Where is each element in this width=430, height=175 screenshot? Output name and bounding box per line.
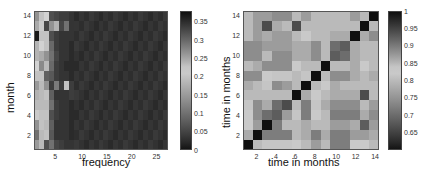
heatmap-cell: [272, 140, 282, 150]
heatmap-cell: [301, 120, 311, 130]
heatmap-cell: [340, 130, 350, 140]
heatmap-cell: [272, 81, 282, 91]
heatmap-cell: [243, 120, 253, 130]
heatmap-cell: [243, 81, 253, 91]
heatmap-cell: [163, 130, 168, 140]
x-tick-label: 25: [153, 153, 161, 160]
heatmap-cell: [311, 21, 321, 31]
heatmap-cell: [330, 41, 340, 51]
heatmap-cell: [321, 110, 331, 120]
heatmap-cell: [262, 90, 272, 100]
heatmap-cell: [360, 130, 370, 140]
heatmap-cell: [253, 120, 263, 130]
heatmap-cell: [292, 140, 302, 150]
heatmap-cell: [272, 61, 282, 71]
heatmap-cell: [311, 31, 321, 41]
heatmap-cell: [350, 61, 360, 71]
heatmap-cell: [321, 71, 331, 81]
heatmap-cell: [369, 90, 379, 100]
heatmap-cell: [321, 81, 331, 91]
left-colorbar: [180, 11, 192, 150]
heatmap-cell: [262, 71, 272, 81]
heatmap-cell: [350, 41, 360, 51]
heatmap-cell: [243, 100, 253, 110]
y-tick-label: 14: [17, 12, 31, 19]
heatmap-cell: [282, 21, 292, 31]
heatmap-cell: [350, 130, 360, 140]
heatmap-cell: [330, 110, 340, 120]
heatmap-cell: [292, 61, 302, 71]
heatmap-cell: [253, 110, 263, 120]
heatmap-cell: [301, 110, 311, 120]
heatmap-cell: [340, 11, 350, 21]
heatmap-cell: [282, 140, 292, 150]
heatmap-cell: [272, 110, 282, 120]
colorbar-tick-label: 0.65: [404, 129, 418, 136]
heatmap-cell: [243, 11, 253, 21]
heatmap-cell: [350, 21, 360, 31]
heatmap-cell: [282, 81, 292, 91]
heatmap-cell: [282, 11, 292, 21]
heatmap-cell: [311, 120, 321, 130]
x-tick-label: 12: [352, 153, 360, 160]
heatmap-cell: [262, 61, 272, 71]
heatmap-cell: [321, 51, 331, 61]
heatmap-cell: [253, 61, 263, 71]
heatmap-cell: [163, 61, 168, 71]
heatmap-cell: [253, 51, 263, 61]
colorbar-tick-label: 0.7: [404, 112, 414, 119]
heatmap-cell: [292, 71, 302, 81]
heatmap-cell: [243, 61, 253, 71]
heatmap-cell: [340, 21, 350, 31]
heatmap-cell: [321, 41, 331, 51]
heatmap-cell: [163, 31, 168, 41]
heatmap-cell: [350, 110, 360, 120]
heatmap-cell: [262, 31, 272, 41]
heatmap-cell: [292, 21, 302, 31]
heatmap-cell: [321, 90, 331, 100]
heatmap-cell: [360, 90, 370, 100]
heatmap-cell: [369, 51, 379, 61]
heatmap-cell: [340, 61, 350, 71]
x-tick-label: 2: [255, 153, 259, 160]
heatmap-cell: [311, 110, 321, 120]
heatmap-cell: [262, 21, 272, 31]
heatmap-cell: [360, 21, 370, 31]
heatmap-cell: [340, 110, 350, 120]
heatmap-cell: [163, 51, 168, 61]
heatmap-cell: [350, 140, 360, 150]
right-x-label: time in months: [268, 156, 340, 168]
heatmap-cell: [321, 11, 331, 21]
heatmap-cell: [243, 51, 253, 61]
heatmap-cell: [340, 120, 350, 130]
left-heatmap: [34, 11, 168, 150]
heatmap-cell: [282, 90, 292, 100]
colorbar-tick-label: 0: [194, 147, 198, 154]
heatmap-cell: [369, 100, 379, 110]
heatmap-cell: [321, 140, 331, 150]
heatmap-cell: [369, 120, 379, 130]
heatmap-cell: [282, 100, 292, 110]
heatmap-cell: [282, 51, 292, 61]
heatmap-cell: [253, 130, 263, 140]
heatmap-cell: [340, 41, 350, 51]
heatmap-cell: [253, 100, 263, 110]
heatmap-cell: [360, 61, 370, 71]
heatmap-cell: [272, 11, 282, 21]
y-tick-label: 6: [17, 92, 31, 99]
colorbar-tick-label: 0.05: [194, 128, 208, 135]
heatmap-cell: [330, 81, 340, 91]
heatmap-cell: [340, 71, 350, 81]
heatmap-cell: [272, 41, 282, 51]
heatmap-cell: [301, 51, 311, 61]
heatmap-cell: [321, 61, 331, 71]
heatmap-cell: [311, 11, 321, 21]
heatmap-cell: [262, 140, 272, 150]
heatmap-cell: [369, 31, 379, 41]
heatmap-cell: [330, 120, 340, 130]
heatmap-cell: [301, 130, 311, 140]
right-colorbar: [388, 11, 402, 150]
heatmap-cell: [369, 11, 379, 21]
colorbar-tick-label: 1: [404, 8, 408, 15]
heatmap-cell: [243, 71, 253, 81]
